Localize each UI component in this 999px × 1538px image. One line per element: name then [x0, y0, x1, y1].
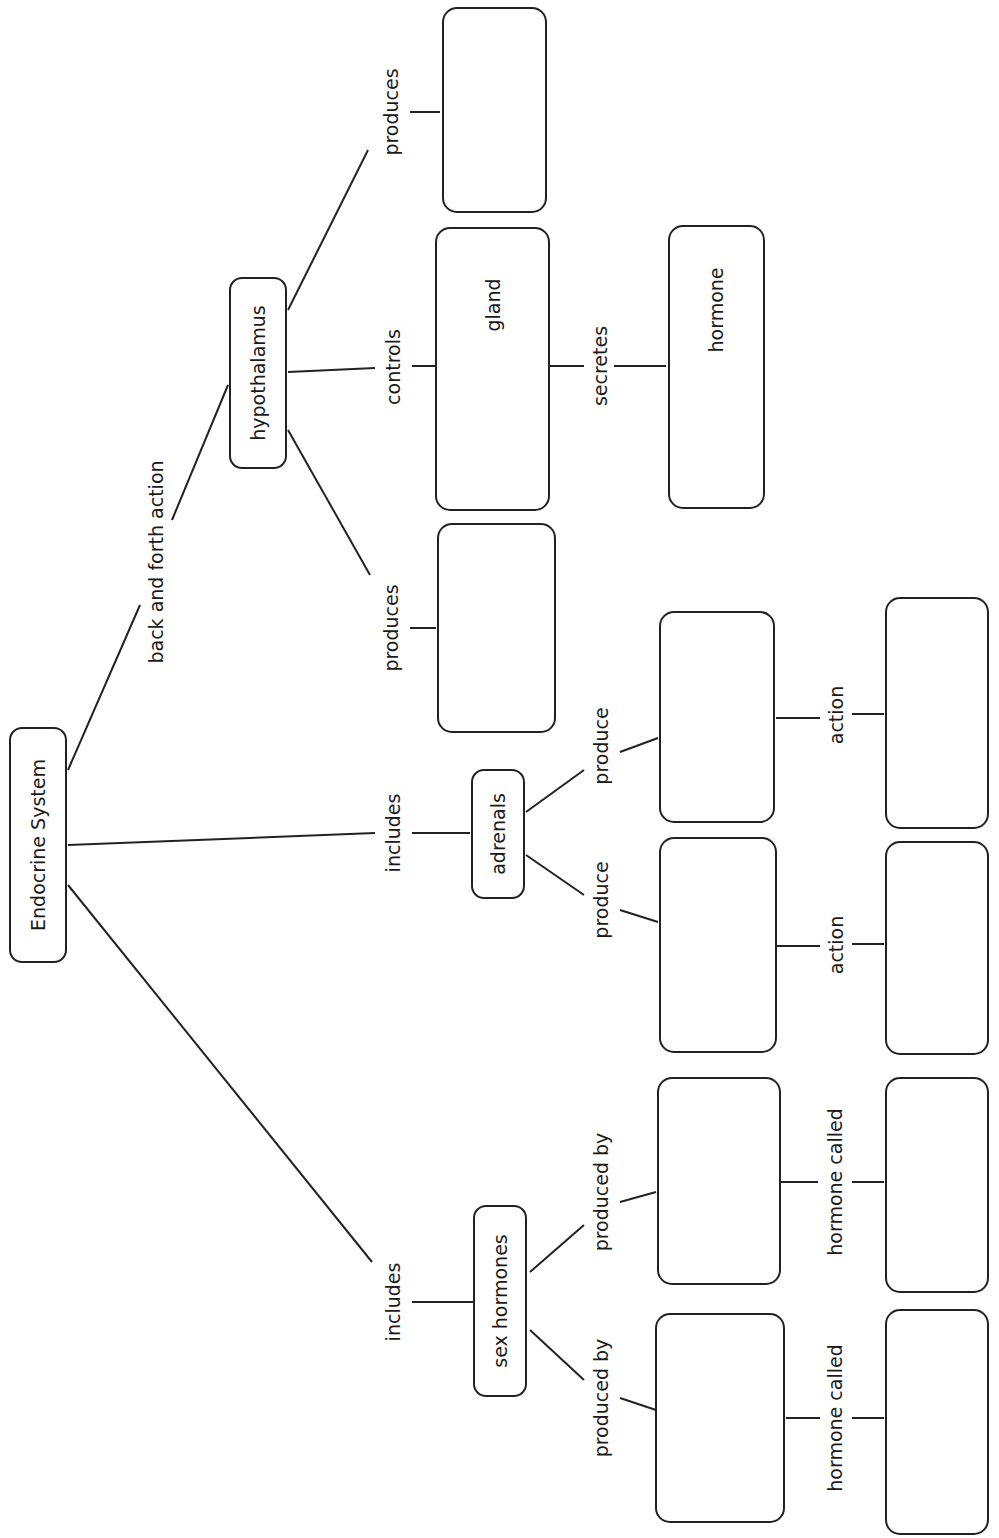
link-adrenal-produce-1: produce — [590, 707, 612, 784]
node-blank-sex-gland-2[interactable] — [656, 1314, 784, 1522]
link-controls: controls — [382, 329, 404, 405]
node-blank-produces-bottom[interactable] — [438, 524, 555, 732]
node-blank-sex-hormone-2[interactable] — [886, 1310, 988, 1534]
link-sex-hormone-called-2: hormone called — [824, 1344, 846, 1491]
link-includes-adrenals: includes — [382, 794, 404, 873]
node-blank-sex-gland-1[interactable] — [658, 1078, 780, 1284]
link-includes-sex: includes — [382, 1263, 404, 1342]
node-blank-adrenal-action-1[interactable] — [886, 598, 988, 828]
node-hormone-label: hormone — [705, 267, 727, 352]
node-blank-adrenal-hormone-1[interactable] — [660, 612, 774, 822]
node-blank-adrenal-hormone-2[interactable] — [660, 838, 776, 1052]
link-sex-hormone-called-1: hormone called — [824, 1108, 846, 1255]
link-adrenal-action-1: action — [825, 686, 847, 744]
node-blank-produces-top[interactable] — [443, 8, 546, 212]
link-back-and-forth: back and forth action — [145, 460, 167, 663]
node-blank-sex-hormone-1[interactable] — [886, 1078, 988, 1292]
node-hypothalamus-label: hypothalamus — [247, 305, 269, 440]
link-sex-produced-by-2: produced by — [590, 1339, 612, 1458]
link-produces-bottom: produces — [380, 584, 402, 671]
link-adrenal-produce-2: produce — [590, 861, 612, 938]
node-labels: Endocrine System hypothalamus gland horm… — [27, 267, 727, 1367]
node-gland-box[interactable] — [436, 228, 549, 510]
concept-map: Endocrine System hypothalamus gland horm… — [0, 0, 999, 1538]
node-gland-label: gland — [482, 278, 504, 331]
node-sex-hormones-label: sex hormones — [489, 1234, 511, 1367]
link-adrenal-action-2: action — [825, 916, 847, 974]
link-sex-produced-by-1: produced by — [590, 1133, 612, 1252]
node-root-label: Endocrine System — [27, 759, 49, 931]
node-adrenals-label: adrenals — [487, 793, 509, 875]
link-produces-top: produces — [380, 68, 402, 155]
link-secretes: secretes — [589, 326, 611, 406]
node-blank-adrenal-action-2[interactable] — [886, 842, 988, 1054]
